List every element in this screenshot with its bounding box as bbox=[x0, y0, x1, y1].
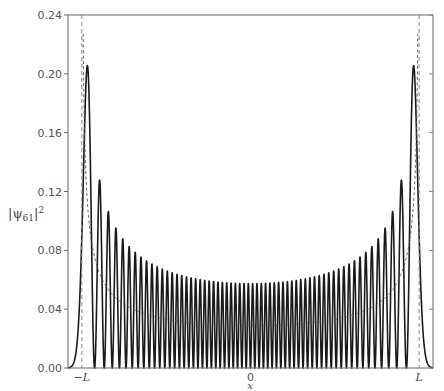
y-tick-label: 0.00 bbox=[38, 362, 63, 375]
y-axis-label: |ψ61|2 bbox=[8, 205, 44, 223]
x-tick-label: L bbox=[415, 371, 423, 384]
probability-density-chart: 0.000.040.080.120.160.200.24 −L0L |ψ61|2… bbox=[0, 0, 444, 391]
y-tick-label: 0.04 bbox=[38, 303, 63, 316]
classical-density-curve bbox=[83, 34, 418, 326]
y-tick-label: 0.24 bbox=[38, 9, 63, 22]
plot-area bbox=[68, 15, 433, 368]
plot-frame bbox=[68, 15, 433, 368]
y-tick-label: 0.16 bbox=[38, 127, 63, 140]
x-tick-label: −L bbox=[74, 371, 91, 384]
x-axis-label: x bbox=[247, 380, 253, 391]
quantum-density-curve bbox=[68, 66, 433, 368]
y-tick-label: 0.12 bbox=[38, 186, 63, 199]
y-tick-label: 0.08 bbox=[38, 244, 63, 257]
y-tick-label: 0.20 bbox=[38, 68, 63, 81]
